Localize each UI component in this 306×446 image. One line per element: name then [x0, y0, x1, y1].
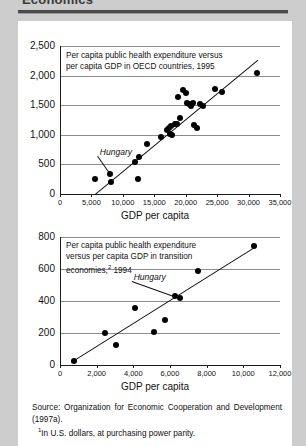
data-point	[175, 94, 181, 100]
data-point	[102, 330, 108, 336]
y-axis-tick-label: 400	[18, 296, 55, 306]
x-axis-tick	[186, 194, 187, 197]
x-axis-tick	[91, 194, 92, 197]
footnote-1-text: In U.S. dollars, at purchasing power par…	[41, 429, 195, 438]
y-axis-tick-label: 1,000	[18, 130, 55, 140]
y-axis-tick-label: 0	[18, 360, 55, 370]
data-point	[251, 243, 257, 249]
data-point	[144, 141, 150, 147]
data-point	[195, 268, 201, 274]
data-point	[132, 305, 138, 311]
figure-body: 05001,0001,5002,0002,50005,00010,00015,0…	[18, 21, 292, 446]
x-axis-tick	[243, 365, 244, 368]
data-point	[92, 176, 98, 182]
data-point	[183, 90, 189, 96]
gridline	[60, 76, 280, 77]
data-point	[219, 89, 225, 95]
data-point	[136, 154, 142, 160]
gridline	[60, 333, 280, 334]
data-point	[162, 317, 168, 323]
gridline	[60, 105, 280, 106]
y-axis-tick-label: 500	[18, 159, 55, 169]
x-axis-tick	[154, 194, 155, 197]
x-axis-tick	[249, 194, 250, 197]
header-rule	[18, 10, 288, 14]
source-footnote-1: 1In U.S. dollars, at purchasing power pa…	[32, 425, 282, 439]
x-axis-tick	[280, 194, 281, 197]
data-point	[212, 86, 218, 92]
x-axis-tick	[217, 194, 218, 197]
source-note: Source: Organization for Economic Cooper…	[32, 402, 282, 439]
data-point	[177, 295, 183, 301]
y-axis	[60, 46, 61, 195]
source-main: Source: Organization for Economic Cooper…	[32, 402, 282, 425]
figure-panel: 05001,0001,5002,0002,50005,00010,00015,0…	[18, 21, 292, 446]
y-axis-tick-label: 2,500	[18, 41, 55, 51]
x-axis-tick-label: 12,000	[255, 370, 305, 378]
annotation-leader-line	[131, 281, 174, 297]
data-point	[151, 329, 157, 335]
data-point	[158, 134, 164, 140]
page-heading: Economics	[22, 0, 93, 7]
data-point	[113, 342, 119, 348]
x-axis-tick	[170, 365, 171, 368]
data-point	[190, 100, 196, 106]
chart-caption: Per capita public health expenditure ver…	[66, 50, 223, 72]
x-axis-tick	[280, 365, 281, 368]
chart-transition: 020040060080002,0004,0006,0008,00010,000…	[18, 215, 292, 405]
y-axis-tick-label: 800	[18, 232, 55, 242]
x-axis	[60, 194, 280, 195]
x-axis-tick	[60, 194, 61, 197]
data-point	[194, 125, 200, 131]
data-point	[200, 103, 206, 109]
x-axis-tick	[207, 365, 208, 368]
y-axis-tick-label: 0	[18, 189, 55, 199]
y-axis-tick-label: 200	[18, 328, 55, 338]
x-axis-tick	[123, 194, 124, 197]
y-axis-tick-label: 600	[18, 264, 55, 274]
x-axis-tick	[133, 365, 134, 368]
gridline	[60, 237, 280, 238]
y-axis-tick-label: 2,000	[18, 71, 55, 81]
data-point	[135, 176, 141, 182]
data-point	[174, 121, 180, 127]
gridline	[60, 164, 280, 165]
chart-caption: Per capita public health expenditurevers…	[66, 240, 196, 276]
x-axis-tick-label: 35,000	[255, 199, 305, 207]
x-axis-title: GDP per capita	[18, 381, 292, 392]
x-axis-tick	[97, 365, 98, 368]
data-point	[169, 132, 175, 138]
x-axis-tick	[60, 365, 61, 368]
gridline	[60, 46, 280, 47]
data-point	[71, 358, 77, 364]
data-point	[132, 159, 138, 165]
data-point	[108, 179, 114, 185]
y-axis-tick-label: 1,500	[18, 100, 55, 110]
y-axis	[60, 237, 61, 366]
trend-line	[95, 60, 259, 195]
annotation-label: Hungary	[100, 147, 132, 157]
chart-oecd: 05001,0001,5002,0002,50005,00010,00015,0…	[18, 21, 292, 221]
data-point	[177, 115, 183, 121]
